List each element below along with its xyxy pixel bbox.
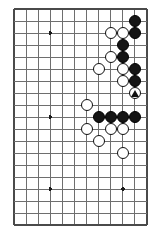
white-stone[interactable] xyxy=(117,27,129,39)
white-stone[interactable] xyxy=(93,63,105,75)
star-point xyxy=(48,31,52,35)
black-stone[interactable] xyxy=(129,63,141,75)
white-stone[interactable] xyxy=(105,51,117,63)
black-stone[interactable] xyxy=(129,75,141,87)
white-stone[interactable] xyxy=(105,123,117,135)
white-stone[interactable] xyxy=(117,147,129,159)
white-stone[interactable] xyxy=(129,87,141,99)
star-point xyxy=(121,187,125,191)
star-point xyxy=(48,115,52,119)
white-stone[interactable] xyxy=(105,27,117,39)
black-stone[interactable] xyxy=(93,111,105,123)
black-stone[interactable] xyxy=(129,15,141,27)
white-stone[interactable] xyxy=(81,99,93,111)
white-stone[interactable] xyxy=(81,123,93,135)
black-stone[interactable] xyxy=(105,111,117,123)
white-stone[interactable] xyxy=(93,135,105,147)
black-stone[interactable] xyxy=(117,39,129,51)
black-stone[interactable] xyxy=(129,111,141,123)
go-board-diagram xyxy=(0,0,160,239)
black-stone[interactable] xyxy=(129,27,141,39)
white-stone[interactable] xyxy=(117,63,129,75)
star-point xyxy=(48,187,52,191)
black-stone[interactable] xyxy=(117,51,129,63)
white-stone[interactable] xyxy=(117,123,129,135)
white-stone[interactable] xyxy=(117,75,129,87)
black-stone[interactable] xyxy=(117,111,129,123)
